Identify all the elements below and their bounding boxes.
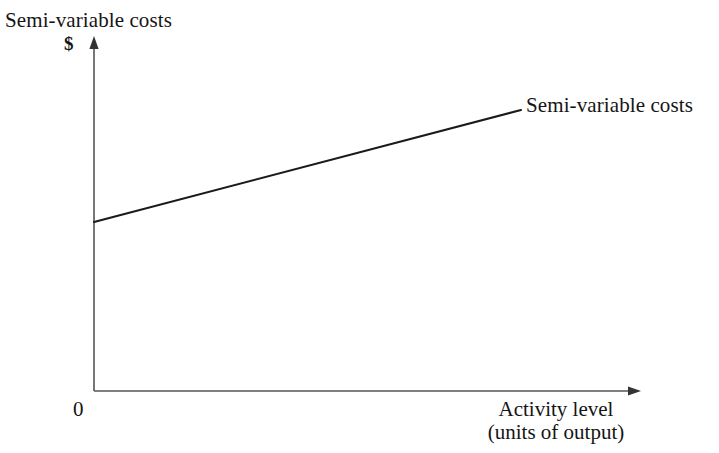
- series-group: [94, 110, 521, 222]
- y-axis-unit-label: $: [64, 34, 74, 53]
- y-axis-arrowhead: [89, 36, 98, 49]
- chart-container: Semi-variable costs $ 0 Semi-variable co…: [0, 0, 719, 453]
- x-axis-label-primary: Activity level: [499, 397, 614, 421]
- origin-label: 0: [73, 399, 84, 420]
- axes-group: [89, 36, 641, 396]
- x-axis-arrowhead: [628, 386, 641, 395]
- chart-canvas: [0, 0, 719, 453]
- semi-variable-cost-line: [94, 110, 521, 222]
- x-axis-label-secondary: (units of output): [488, 421, 625, 444]
- series-annotation-label: Semi-variable costs: [526, 95, 693, 116]
- x-axis-label: Activity level (units of output): [488, 398, 625, 444]
- chart-title: Semi-variable costs: [5, 10, 172, 31]
